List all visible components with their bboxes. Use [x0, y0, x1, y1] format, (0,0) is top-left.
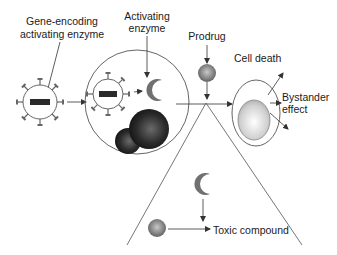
gene-directed-enzyme-prodrug-therapy-diagram: Gene-encoding activating enzyme Activati… [0, 0, 337, 255]
bystander-label-line1: Bystander [282, 91, 330, 103]
prodrug-icon [198, 64, 216, 82]
cell-death-label: Cell death [234, 52, 281, 64]
gene-encoding-label-line1: Gene-encoding [26, 15, 98, 27]
gene-bar-icon [30, 99, 50, 105]
viral-vector-left [17, 79, 63, 125]
gene-encoding-label-line2: activating enzyme [20, 28, 104, 40]
prodrug-label: Prodrug [188, 30, 226, 42]
gene-bar-icon [99, 91, 117, 97]
dying-cell-nucleus [238, 100, 270, 140]
activating-enzyme-label-line2: enzyme [129, 22, 166, 34]
prodrug-zoom-icon [148, 219, 166, 237]
bystander-label-line2: effect [282, 103, 308, 115]
activating-enzyme-icon [146, 79, 162, 101]
expression-arrow [134, 91, 142, 92]
bystander-arrow-up [268, 73, 283, 95]
toxic-compound-label: Toxic compound [213, 224, 289, 236]
nucleus-large-icon [129, 109, 169, 149]
activating-enzyme-label-line1: Activating [124, 10, 170, 22]
viral-vector-inside-cell [87, 73, 129, 115]
enzyme-zoom-icon [194, 173, 210, 195]
